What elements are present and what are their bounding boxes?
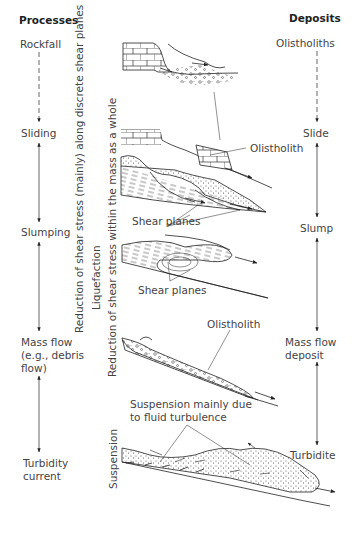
slump-sketch <box>121 156 266 226</box>
slump-fold-sketch <box>122 235 268 298</box>
turbidity-sketch <box>122 425 335 506</box>
diagram-graphics <box>0 0 356 558</box>
rockfall-sketch <box>123 43 238 85</box>
mass-flow-sketch <box>122 330 278 406</box>
